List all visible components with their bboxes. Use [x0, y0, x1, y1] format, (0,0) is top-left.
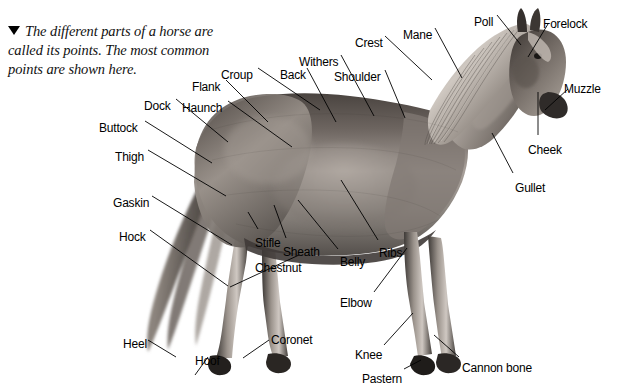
leader-line-poll [497, 15, 521, 45]
leader-line-hock [150, 230, 228, 286]
label-belly: Belly [340, 255, 365, 269]
label-thigh: Thigh [115, 150, 144, 164]
horse-points-diagram: The different parts of a horse are calle… [0, 0, 617, 387]
leader-line-cannon-bone [434, 335, 459, 357]
label-flank: Flank [192, 80, 220, 94]
leader-line-crest [385, 36, 432, 80]
leader-line-flank [226, 80, 268, 122]
leader-line-stifle [248, 212, 258, 229]
label-poll: Poll [474, 15, 493, 29]
leader-line-gaskin [152, 196, 232, 245]
label-knee: Knee [355, 348, 382, 362]
label-stifle: Stifle [255, 236, 280, 250]
leader-line-knee [384, 313, 413, 345]
leader-line-pastern [404, 360, 421, 369]
label-cannon-bone: Cannon bone [462, 361, 532, 375]
label-buttock: Buttock [99, 121, 138, 135]
label-ribs: Ribs [379, 246, 402, 260]
label-shoulder: Shoulder [334, 70, 380, 84]
label-crest: Crest [355, 36, 383, 50]
leader-line-heel [148, 340, 176, 357]
label-withers: Withers [299, 55, 338, 69]
caption: The different parts of a horse are calle… [8, 22, 233, 79]
leader-line-mane [435, 28, 462, 78]
label-gullet: Gullet [515, 181, 545, 195]
leader-line-sheath [274, 205, 286, 238]
caption-text: The different parts of a horse are calle… [8, 23, 213, 77]
label-gaskin: Gaskin [113, 196, 149, 210]
label-dock: Dock [144, 99, 171, 113]
label-muzzle: Muzzle [564, 82, 601, 96]
label-croup: Croup [221, 68, 253, 82]
label-heel: Heel [123, 337, 147, 351]
leader-line-belly [298, 200, 338, 249]
triangle-down-icon [8, 26, 20, 35]
label-forelock: Forelock [543, 17, 587, 31]
leader-line-haunch [228, 101, 292, 147]
leader-line-ribs [341, 180, 378, 240]
leader-line-withers [341, 55, 374, 116]
label-cheek: Cheek [528, 143, 562, 157]
label-mane: Mane [403, 28, 432, 42]
label-sheath: Sheath [283, 245, 320, 259]
label-elbow: Elbow [340, 296, 372, 310]
label-chestnut: Chestnut [255, 261, 301, 275]
label-pastern: Pastern [362, 372, 402, 386]
label-hoof: Hoof [195, 354, 220, 368]
leader-line-buttock [145, 121, 212, 163]
leader-line-shoulder [385, 70, 405, 118]
leader-line-coronet [243, 340, 269, 358]
label-back: Back [280, 68, 306, 82]
leader-line-back [307, 68, 336, 122]
leader-line-gullet [492, 133, 513, 173]
leader-line-thigh [148, 150, 226, 196]
label-haunch: Haunch [182, 101, 222, 115]
label-hock: Hock [119, 230, 146, 244]
label-coronet: Coronet [271, 333, 312, 347]
